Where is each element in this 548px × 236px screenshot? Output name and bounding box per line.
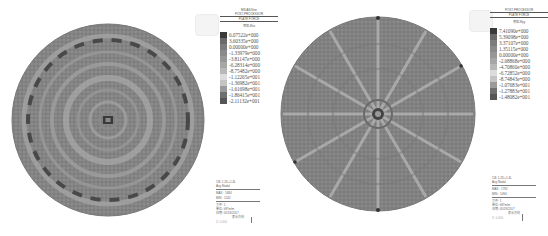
right-contour-plot — [278, 14, 478, 214]
legend-component: 弯矩-Mxx — [220, 24, 278, 28]
legend-component: 弯矩-Myy — [490, 20, 548, 24]
midas-logo — [195, 14, 219, 36]
averaging-mode: Avg Nodal — [216, 184, 260, 188]
right-result-panel: POST-PROCESSOR PLATE FORCE 弯矩-Myy 7.4109… — [272, 0, 545, 236]
legend-result-type: PLATE FORCE — [220, 17, 278, 22]
averaging-mode: Avg Nodal — [492, 180, 536, 184]
left-info-block: CB: 1.2D+1.4L Avg Nodal MAX : 1684 MIN :… — [216, 180, 260, 224]
view-coordinate: X: 0.000 — [216, 220, 260, 224]
min-node: MIN : 1242 — [216, 196, 260, 200]
axis-triad-icon — [251, 217, 252, 223]
right-legend: POST-PROCESSOR PLATE FORCE 弯矩-Myy 7.4109… — [490, 8, 548, 100]
left-contour-plot — [8, 20, 208, 220]
right-color-scale: 7.41090e+000 5.39098e+000 3.37107e+000 1… — [490, 28, 548, 100]
legend-row: -2.11132e+001 — [220, 98, 278, 104]
right-info-block: CB: 1.2D+1.4L Avg Nodal MAX : 1792 MIN :… — [492, 176, 536, 220]
min-node: MIN : 1094 — [492, 192, 536, 196]
legend-row: -1.48082e+001 — [490, 94, 548, 100]
view-coordinate: X: 0.000 — [492, 216, 536, 220]
left-color-scale: 6.07522e+000 3.60335e+000 0.00000e+000 -… — [220, 32, 278, 104]
left-result-panel: MIDAS/Gen POST-PROCESSOR PLATE FORCE 弯矩-… — [0, 0, 272, 236]
left-legend: MIDAS/Gen POST-PROCESSOR PLATE FORCE 弯矩-… — [220, 8, 278, 104]
axis-triad-icon — [522, 214, 523, 221]
legend-result-type: PLATE FORCE — [490, 13, 548, 18]
